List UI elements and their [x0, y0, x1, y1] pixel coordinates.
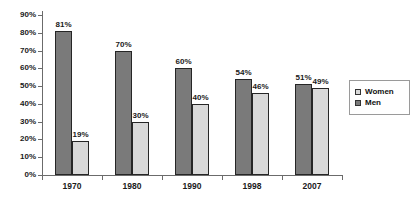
bar-women-1980	[132, 122, 149, 175]
bar-women-2007	[312, 88, 329, 175]
y-tick-label: 90%	[2, 10, 36, 20]
bar-men-1998	[235, 79, 252, 175]
legend-marker-men	[355, 100, 361, 106]
y-axis-line	[42, 11, 43, 175]
x-tick-mark	[282, 176, 283, 180]
value-label: 49%	[308, 77, 334, 87]
value-label: 30%	[128, 111, 154, 121]
legend-marker-women	[355, 89, 361, 95]
x-axis-line	[42, 175, 343, 176]
category-label: 1980	[110, 181, 154, 191]
x-tick-mark	[222, 176, 223, 180]
x-tick-mark	[102, 176, 103, 180]
value-label: 46%	[248, 82, 274, 92]
value-label: 40%	[188, 93, 214, 103]
y-tick-label: 40%	[2, 99, 36, 109]
y-tick-label: 60%	[2, 63, 36, 73]
category-label: 1990	[170, 181, 214, 191]
value-label: 81%	[51, 20, 77, 30]
legend-item-women: Women	[355, 88, 404, 96]
value-label: 19%	[68, 130, 94, 140]
y-tick-label: 0%	[2, 170, 36, 180]
y-tick-label: 20%	[2, 134, 36, 144]
y-tick-label: 50%	[2, 81, 36, 91]
y-tick-label: 80%	[2, 28, 36, 38]
legend: WomenMen	[349, 80, 410, 115]
bar-chart: 0%10%20%30%40%50%60%70%80%90% 81%19%70%3…	[0, 0, 414, 198]
bar-men-1970	[55, 31, 72, 175]
bar-men-2007	[295, 84, 312, 175]
x-tick-mark	[162, 176, 163, 180]
y-tick-label: 70%	[2, 46, 36, 56]
x-tick-mark	[42, 176, 43, 180]
value-label: 54%	[231, 68, 257, 78]
category-label: 2007	[290, 181, 334, 191]
category-label: 1998	[230, 181, 274, 191]
legend-item-men: Men	[355, 99, 404, 107]
y-tick-label: 30%	[2, 117, 36, 127]
y-tick-label: 10%	[2, 152, 36, 162]
x-tick-mark	[342, 176, 343, 180]
category-label: 1970	[50, 181, 94, 191]
bar-women-1970	[72, 141, 89, 175]
bar-women-1998	[252, 93, 269, 175]
value-label: 70%	[111, 40, 137, 50]
bar-women-1990	[192, 104, 209, 175]
bar-men-1990	[175, 68, 192, 175]
legend-label: Women	[365, 88, 394, 96]
legend-label: Men	[365, 99, 381, 107]
value-label: 60%	[171, 57, 197, 67]
